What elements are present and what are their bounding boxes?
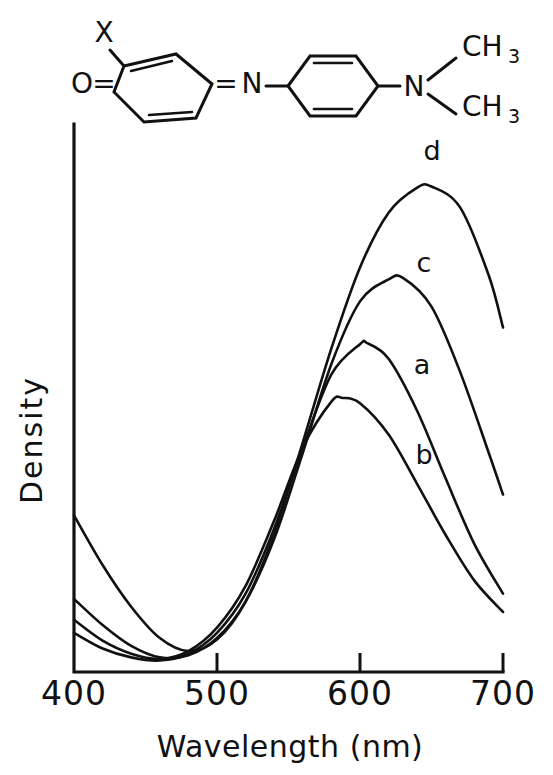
double-bond-left-symbol: = [92,67,115,100]
quinone-double-bond-bottom [149,112,192,115]
double-bond-right-symbol: = [214,67,237,100]
bond-amine-to-methyl-bottom [428,94,456,114]
spectra-curves [74,184,503,660]
curve-label-b: b [415,439,432,470]
plot-axes [74,124,503,672]
amine-nitrogen-label: N [404,70,425,103]
methyl-top-subscript: 3 [508,45,520,67]
axis-lines [74,124,503,672]
curve-label-d: d [423,135,440,166]
bond-x-to-ring [110,50,124,66]
y-axis-title: Density [14,376,49,504]
x-axis-title: Wavelength (nm) [157,729,424,764]
methyl-top-label: CH [462,30,503,63]
curve-label-a: a [414,349,431,380]
x-tick-label-700: 700 [470,674,536,713]
bond-amine-to-methyl-top [428,58,456,80]
curve-b [74,397,503,659]
imine-nitrogen-label: N [242,67,263,100]
x-tick-label-400: 400 [41,674,107,713]
chemical-structure-diagram: X O = = N N CH 3 CH 3 [71,16,520,127]
benzene-ring [288,56,378,116]
methyl-bottom-subscript: 3 [508,105,520,127]
x-tick-label-500: 500 [184,674,250,713]
x-tick-labels: 400 500 600 700 [41,674,536,713]
curve-d [74,184,503,651]
x-tick-label-600: 600 [327,674,393,713]
methyl-bottom-label: CH [462,90,503,123]
absorption-spectra-figure: X O = = N N CH 3 CH 3 [0,0,553,775]
curve-c [74,275,503,658]
oxygen-label: O [71,67,93,100]
curve-label-c: c [417,247,432,278]
substituent-x-label: X [94,16,113,49]
